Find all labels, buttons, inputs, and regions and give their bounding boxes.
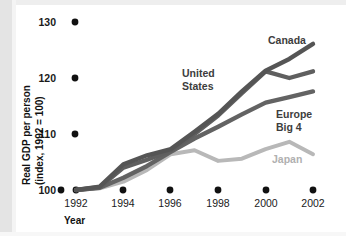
xtick-dot-1998: [215, 187, 222, 194]
xtick-dot-1994: [120, 187, 127, 194]
series-label-united-states-line2: States: [182, 80, 214, 92]
line-chart-plot: 130 120 110 100 1992 1994 1996 1998 2000…: [0, 0, 346, 236]
xtick-dot-2002: [310, 187, 317, 194]
xtick-label-2000: 2000: [254, 197, 278, 209]
y-axis-title-line2: (index, 1992 = 100): [34, 96, 45, 185]
ytick-dot-110: [72, 131, 79, 138]
series-label-europe-big-4-line2: Big 4: [276, 121, 302, 133]
series-label-canada: Canada: [268, 34, 306, 46]
series-label-europe-big-4-line1: Europe: [276, 108, 312, 120]
xtick-label-1998: 1998: [206, 197, 230, 209]
xtick-label-1994: 1994: [111, 197, 135, 209]
ytick-dot-100: [58, 187, 65, 194]
ytick-dot-120: [72, 75, 79, 82]
xtick-label-2002: 2002: [301, 197, 325, 209]
y-axis-title-line1: Real GDP per person: [21, 85, 32, 185]
chart-figure: 130 120 110 100 1992 1994 1996 1998 2000…: [0, 0, 346, 236]
xtick-label-1992: 1992: [64, 197, 88, 209]
ytick-label-130: 130: [38, 16, 56, 28]
ytick-label-120: 120: [38, 72, 56, 84]
series-label-japan: Japan: [272, 153, 302, 165]
x-axis-title: Year: [64, 215, 85, 226]
ytick-dot-130: [72, 19, 79, 26]
series-label-united-states-line1: United: [182, 67, 215, 79]
xtick-dot-1996: [167, 187, 174, 194]
xtick-label-1996: 1996: [158, 197, 182, 209]
xtick-dot-2000: [263, 187, 270, 194]
